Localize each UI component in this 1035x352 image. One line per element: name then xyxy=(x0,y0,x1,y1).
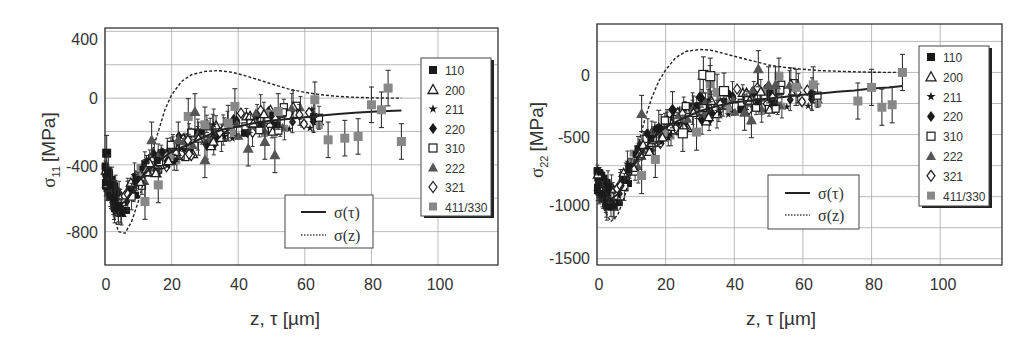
svg-text:220: 220 xyxy=(943,110,963,124)
svg-text:0: 0 xyxy=(581,67,590,84)
svg-text:110: 110 xyxy=(943,51,962,65)
svg-text:222: 222 xyxy=(445,162,465,176)
svg-text:σ22[MPa]: σ22[MPa] xyxy=(526,102,550,178)
svg-text:σ(z): σ(z) xyxy=(334,227,360,245)
y-tick-labels: 0 -500 -1000 -1500 xyxy=(549,67,590,267)
curve-legend: σ(τ) σ(z) xyxy=(285,195,373,248)
svg-text:-1000: -1000 xyxy=(549,197,590,214)
svg-text:40: 40 xyxy=(726,276,744,293)
y-tick-labels: 400 0 -400 -800 xyxy=(66,31,98,241)
svg-text:211: 211 xyxy=(445,103,464,117)
svg-text:σ(z): σ(z) xyxy=(818,207,844,225)
svg-text:-1500: -1500 xyxy=(549,250,590,267)
svg-text:100: 100 xyxy=(930,276,957,293)
svg-text:100: 100 xyxy=(427,276,454,293)
svg-text:60: 60 xyxy=(795,276,813,293)
svg-text:321: 321 xyxy=(943,170,963,184)
svg-text:211: 211 xyxy=(943,91,962,105)
svg-text:110: 110 xyxy=(445,64,464,78)
svg-text:321: 321 xyxy=(445,181,465,195)
svg-text:220: 220 xyxy=(445,123,465,137)
sigma11-chart: σ11[MPa] z, τ [µm] 400 0 -400 -800 0 20 … xyxy=(0,0,517,352)
y-axis-label: σ11[MPa] xyxy=(38,112,62,187)
svg-text:σ11[MPa]: σ11[MPa] xyxy=(38,112,62,187)
svg-text:310: 310 xyxy=(943,130,963,144)
reflection-legend: 110200211220310222321411/330 xyxy=(421,58,494,218)
svg-text:20: 20 xyxy=(163,276,181,293)
svg-text:60: 60 xyxy=(297,276,315,293)
svg-text:80: 80 xyxy=(865,276,883,293)
x-axis-label: z, τ [µm] xyxy=(746,308,816,329)
svg-text:-500: -500 xyxy=(558,129,590,146)
svg-text:411/330: 411/330 xyxy=(445,201,488,215)
x-tick-labels: 0 20 40 60 80 100 xyxy=(595,276,957,293)
svg-text:0: 0 xyxy=(89,90,98,107)
svg-text:0: 0 xyxy=(102,276,111,293)
svg-text:200: 200 xyxy=(445,84,465,98)
sigma22-chart: σ22[MPa] z, τ [µm] 0 -500 -1000 -1500 0 … xyxy=(517,0,1035,352)
svg-text:310: 310 xyxy=(445,142,465,156)
svg-text:400: 400 xyxy=(71,31,98,48)
svg-text:222: 222 xyxy=(943,150,963,164)
svg-text:0: 0 xyxy=(595,276,604,293)
svg-text:411/330: 411/330 xyxy=(943,190,986,204)
svg-text:-800: -800 xyxy=(66,224,98,241)
svg-text:σ(τ): σ(τ) xyxy=(334,204,360,222)
reflection-legend: 110200211220310222321411/330 xyxy=(919,46,992,208)
curve-legend: σ(τ) σ(z) xyxy=(768,175,859,229)
svg-text:σ(τ): σ(τ) xyxy=(818,185,844,203)
svg-text:40: 40 xyxy=(230,276,248,293)
svg-text:80: 80 xyxy=(364,276,382,293)
svg-text:20: 20 xyxy=(657,276,675,293)
svg-text:-400: -400 xyxy=(66,158,98,175)
svg-text:200: 200 xyxy=(943,71,963,85)
y-axis-label: σ22[MPa] xyxy=(526,102,550,178)
x-tick-labels: 0 20 40 60 80 100 xyxy=(102,276,454,293)
x-axis-label: z, τ [µm] xyxy=(250,308,320,329)
